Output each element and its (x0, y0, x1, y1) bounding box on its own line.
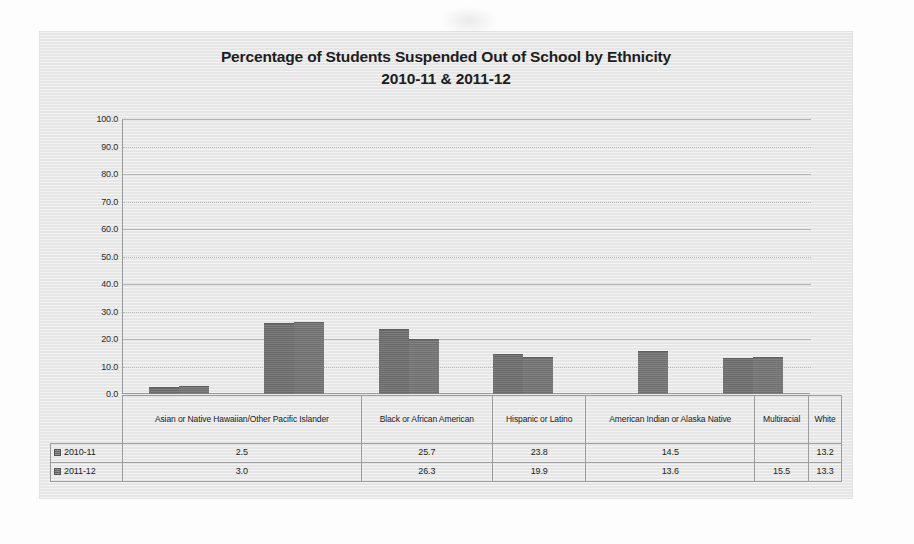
y-axis-tick-label: 70.0 (74, 197, 118, 207)
table-cell: 13.3 (809, 463, 842, 482)
table-cell: 26.3 (361, 463, 492, 482)
bar-2011-12 (409, 339, 439, 394)
table-column-header: Hispanic or Latino (492, 396, 585, 444)
bar-group (237, 119, 352, 394)
bar-2011-12 (179, 386, 209, 394)
y-axis: 100.090.080.070.060.050.040.030.020.010.… (68, 119, 118, 394)
bar-2011-12 (638, 351, 668, 394)
y-axis-tick-label: 80.0 (74, 169, 118, 179)
bar-2010-11 (493, 354, 523, 394)
table-column-header: White (809, 396, 842, 444)
y-axis-tick-label: 60.0 (74, 224, 118, 234)
table-cell (755, 444, 809, 463)
bar-group (695, 119, 810, 394)
chart-title-line-2: 2010-11 & 2011-12 (40, 68, 852, 90)
y-axis-tick-label: 40.0 (74, 279, 118, 289)
bar-2011-12 (753, 357, 783, 394)
table-cell: 13.6 (586, 463, 755, 482)
y-axis-tick-label: 20.0 (74, 334, 118, 344)
bar-group (581, 119, 696, 394)
table-row: 2010-112.525.723.814.513.2 (51, 444, 842, 463)
bar-series-container (122, 119, 810, 394)
table-cell: 15.5 (755, 463, 809, 482)
chart-title-line-1: Percentage of Students Suspended Out of … (221, 48, 671, 65)
table-header-row: Asian or Native Hawaiian/Other Pacific I… (51, 396, 842, 444)
chart-panel: Percentage of Students Suspended Out of … (40, 32, 852, 498)
y-axis-tick-label: 50.0 (74, 252, 118, 262)
legend-swatch-icon (54, 449, 61, 456)
bar-2010-11 (149, 387, 179, 394)
legend-item-2011-12: 2011-12 (51, 463, 123, 482)
table-corner-cell (51, 396, 123, 444)
bar-group (466, 119, 581, 394)
y-axis-tick-label: 30.0 (74, 307, 118, 317)
table-cell: 19.9 (492, 463, 585, 482)
table-row: 2011-123.026.319.913.615.513.3 (51, 463, 842, 482)
table-cell: 14.5 (586, 444, 755, 463)
table-column-header: Black or African American (361, 396, 492, 444)
table-column-header: Asian or Native Hawaiian/Other Pacific I… (123, 396, 362, 444)
y-axis-tick-label: 90.0 (74, 142, 118, 152)
bar-2011-12 (523, 357, 553, 394)
bar-2011-12 (294, 322, 324, 394)
y-axis-tick-label: 100.0 (74, 114, 118, 124)
table-cell: 2.5 (123, 444, 362, 463)
data-table: Asian or Native Hawaiian/Other Pacific I… (50, 395, 842, 482)
y-axis-tick-label: 10.0 (74, 362, 118, 372)
table-column-header: Multiracial (755, 396, 809, 444)
scanned-page: Percentage of Students Suspended Out of … (0, 0, 914, 544)
chart-title: Percentage of Students Suspended Out of … (40, 46, 852, 91)
table-body: 2010-112.525.723.814.513.22011-123.026.3… (51, 444, 842, 482)
bar-2010-11 (379, 329, 409, 394)
bar-2010-11 (264, 323, 294, 394)
bar-group (351, 119, 466, 394)
table-cell: 13.2 (809, 444, 842, 463)
table-cell: 23.8 (492, 444, 585, 463)
table-cell: 25.7 (361, 444, 492, 463)
legend-label: 2011-12 (64, 466, 96, 476)
legend-label: 2010-11 (64, 447, 96, 457)
table-column-header: American Indian or Alaska Native (586, 396, 755, 444)
bar-2010-11 (723, 358, 753, 394)
bar-group (122, 119, 237, 394)
legend-item-2010-11: 2010-11 (51, 444, 123, 463)
table-cell: 3.0 (123, 463, 362, 482)
legend-swatch-icon (54, 468, 61, 475)
